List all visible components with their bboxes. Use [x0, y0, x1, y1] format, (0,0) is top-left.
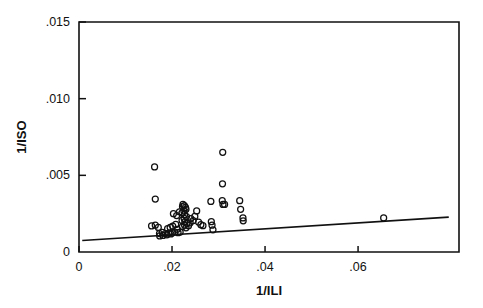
y-tick-label-2: .010: [46, 92, 70, 106]
figure-background: [0, 0, 483, 308]
scatter-plot-svg: 0.02.04.06 0.005.010.015 1/ILI 1/ISO: [0, 0, 483, 308]
x-axis-title: 1/ILI: [256, 283, 282, 298]
y-axis-title: 1/ISO: [14, 120, 29, 153]
x-tick-label-3: .06: [349, 260, 366, 274]
x-tick-label-0: 0: [76, 260, 83, 274]
x-tick-label-2: .04: [256, 260, 273, 274]
y-tick-label-0: 0: [63, 245, 70, 259]
chart-figure: 0.02.04.06 0.005.010.015 1/ILI 1/ISO: [0, 0, 483, 308]
x-tick-label-1: .02: [163, 260, 180, 274]
y-tick-label-1: .005: [46, 168, 70, 182]
y-tick-label-3: .015: [46, 15, 70, 29]
